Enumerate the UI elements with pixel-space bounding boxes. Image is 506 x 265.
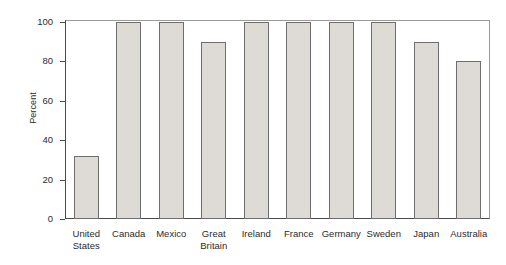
x-axis-tick-label: Japan <box>405 228 448 240</box>
bar <box>159 22 184 219</box>
x-axis-tick-label: Ireland <box>235 228 278 240</box>
x-axis-tick-label: Germany <box>320 228 363 240</box>
bar <box>414 42 439 219</box>
y-axis-tick-label: 80 <box>42 55 53 66</box>
bar <box>201 42 226 219</box>
y-axis-tick-mark <box>60 219 65 220</box>
y-axis-tick-label: 60 <box>42 95 53 106</box>
y-axis-tick-mark <box>60 101 65 102</box>
y-axis-tick-label: 40 <box>42 134 53 145</box>
y-axis-tick-mark <box>60 180 65 181</box>
bar <box>371 22 396 219</box>
x-axis-tick-label: United States <box>65 228 108 252</box>
x-axis-tick-label: Great Britain <box>193 228 236 252</box>
bar <box>74 156 99 219</box>
y-axis-tick-label: 100 <box>37 16 53 27</box>
y-axis-tick-mark <box>60 140 65 141</box>
bar-chart: Percent 020406080100 United StatesCanada… <box>0 0 506 265</box>
bar <box>116 22 141 219</box>
x-axis-tick-label: Sweden <box>363 228 406 240</box>
x-axis-tick-label: France <box>278 228 321 240</box>
y-axis-tick-mark <box>60 61 65 62</box>
y-axis-tick-label: 20 <box>42 174 53 185</box>
bar <box>329 22 354 219</box>
bar <box>456 61 481 219</box>
x-axis-tick-label: Australia <box>448 228 491 240</box>
x-axis-tick-label: Canada <box>108 228 151 240</box>
y-axis-title: Percent <box>28 68 38 148</box>
x-axis-tick-label: Mexico <box>150 228 193 240</box>
y-axis-tick-label: 0 <box>48 213 53 224</box>
bar <box>244 22 269 219</box>
y-axis-tick-mark <box>60 22 65 23</box>
bar <box>286 22 311 219</box>
